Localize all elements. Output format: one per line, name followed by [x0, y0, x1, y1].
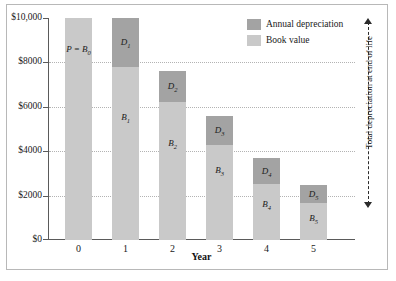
legend-swatch-book-value: [247, 35, 261, 46]
y-tick-label-10000: $10,000: [11, 13, 42, 23]
y-axis-labels: $10,000 $8000 $6000 $4000 $2000 $0: [0, 18, 42, 240]
total-depreciation-annotation: Total depreciation at end of life: [356, 18, 382, 208]
bar-label-b5: B5: [300, 214, 327, 225]
arrow-down-icon: [364, 202, 372, 208]
bar-label-b0: P = B0: [65, 45, 92, 56]
gridline-4000: [49, 151, 355, 152]
bar-segment-book-year-3: [206, 145, 233, 240]
bar-year-2[interactable]: D2 B2: [159, 71, 186, 240]
bar-year-1[interactable]: D1 B1: [112, 18, 139, 240]
bar-year-4[interactable]: D4 B4: [253, 158, 280, 240]
bar-label-d5: D5: [300, 190, 327, 201]
plot-area: P = B0 0 D1 B1 1 D2 B2 2 D3 B3 3: [48, 18, 355, 240]
bar-label-b4: B4: [253, 200, 280, 211]
y-tick-8000: [43, 62, 48, 63]
bar-label-b3: B3: [206, 166, 233, 177]
bar-label-d4: D4: [253, 167, 280, 178]
y-tick-label-0: $0: [33, 235, 43, 245]
legend-swatch-annual-depreciation: [247, 19, 261, 30]
depreciation-chart-figure: $10,000 $8000 $6000 $4000 $2000 $0 P = B…: [0, 0, 396, 281]
bar-segment-book-year-1: [112, 67, 139, 240]
y-axis-line: [48, 18, 49, 240]
legend-item-book-value[interactable]: Book value: [247, 34, 355, 48]
bar-label-b1: B1: [112, 113, 139, 124]
bar-label-d3: D3: [206, 126, 233, 137]
legend-label-book-value: Book value: [266, 34, 310, 46]
y-tick-label-8000: $8000: [18, 57, 42, 67]
bar-year-5[interactable]: D5 B5: [300, 185, 327, 241]
y-tick-2000: [43, 196, 48, 197]
bar-segment-book-year-4: [253, 184, 280, 240]
y-tick-4000: [43, 151, 48, 152]
bar-segment-book-year-2: [159, 102, 186, 240]
y-tick-label-4000: $4000: [18, 146, 42, 156]
legend-label-annual-depreciation: Annual depreciation: [266, 18, 343, 30]
y-tick-label-2000: $2000: [18, 191, 42, 201]
bar-year-3[interactable]: D3 B3: [206, 116, 233, 240]
y-tick-0: [43, 239, 48, 240]
y-tick-label-6000: $6000: [18, 102, 42, 112]
legend-item-annual-depreciation[interactable]: Annual depreciation: [247, 18, 355, 32]
chart-legend: Annual depreciation Book value: [247, 18, 355, 50]
bar-label-b2: B2: [159, 139, 186, 150]
y-tick-6000: [43, 107, 48, 108]
annotation-label: Total depreciation at end of life: [365, 8, 374, 178]
x-axis-title: Year: [48, 252, 355, 262]
bar-year-0[interactable]: P = B0: [65, 18, 92, 240]
bar-label-d1: D1: [112, 38, 139, 49]
gridline-6000: [49, 107, 355, 108]
gridline-8000: [49, 62, 355, 63]
bar-label-d2: D2: [159, 82, 186, 93]
y-tick-10000: [43, 18, 48, 19]
